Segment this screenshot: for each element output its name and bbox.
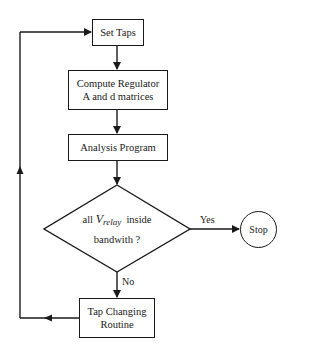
compute-line1: Compute Regulator (77, 77, 160, 90)
tap-changing-line2: Routine (100, 318, 133, 331)
compute-line2: A and d matrices (83, 90, 154, 103)
tap-changing-box: Tap Changing Routine (79, 298, 155, 338)
no-label: No (122, 276, 134, 287)
set-taps-label: Set Taps (100, 26, 136, 39)
yes-label: Yes (200, 214, 215, 225)
decision-line1: all Vrelay inside (60, 210, 174, 231)
analysis-program-box: Analysis Program (68, 134, 168, 161)
set-taps-box: Set Taps (92, 19, 144, 46)
stop-label: Stop (249, 224, 267, 235)
tap-changing-line1: Tap Changing (87, 305, 146, 318)
decision-line2: bandwith ? (60, 231, 174, 249)
analysis-label: Analysis Program (80, 141, 156, 154)
decision-text: all Vrelay inside bandwith ? (60, 210, 174, 249)
compute-regulator-box: Compute Regulator A and d matrices (68, 70, 168, 110)
v-relay-symbol: Vrelay (96, 212, 122, 226)
stop-terminal: Stop (240, 211, 277, 248)
